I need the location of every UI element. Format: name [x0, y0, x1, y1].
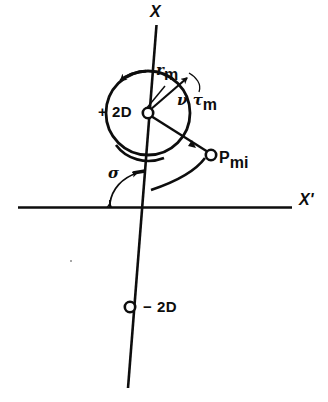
annotation-label-r-m: rm [156, 62, 178, 83]
r-m-base: r [156, 61, 164, 79]
p-mi-subscript: mi [230, 154, 249, 171]
node-p-mi [206, 150, 216, 160]
node-label-p-mi: Pmi [219, 150, 248, 171]
nu-tau-base: ν τ [177, 91, 203, 109]
node-center-plus-2d [143, 108, 153, 118]
node-label-plus-2d: + 2D [98, 104, 132, 119]
sigma-tick-mark [133, 171, 145, 173]
vector-center-to-p-mi [151, 116, 208, 152]
node-label-minus-2d: − 2D [143, 299, 177, 314]
diagram-canvas [0, 0, 328, 402]
circle-rotation-arrowhead-icon [121, 71, 147, 80]
axis-label-x: X [150, 4, 161, 20]
figure-root: X X' + 2D − 2D Pmi rm ν τm σ [0, 0, 328, 402]
annotation-label-sigma: σ [108, 166, 119, 181]
node-minus-2d [125, 302, 135, 312]
sweep-arc-to-p-mi [151, 158, 205, 190]
scan-speck [70, 260, 72, 262]
axis-label-x-prime: X' [299, 192, 313, 208]
annotation-label-nu-tau-m: ν τm [177, 92, 217, 113]
r-m-subscript: m [164, 66, 178, 83]
nu-tau-subscript: m [203, 96, 217, 113]
p-mi-base: P [219, 149, 230, 166]
nu-tau-leader-arc [189, 73, 200, 92]
